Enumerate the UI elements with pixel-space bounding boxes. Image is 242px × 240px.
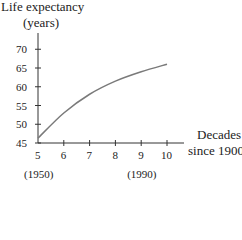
x-tick-label: 9 [138, 149, 144, 161]
x-tick-label: 7 [87, 149, 93, 161]
x-tick-label: 5 [35, 149, 41, 161]
y-tick-label: 65 [16, 62, 27, 74]
x-tick-label: 6 [61, 149, 67, 161]
x-tick-label: 10 [161, 149, 172, 161]
life-expectancy-curve [38, 64, 167, 138]
y-tick-label: 45 [16, 137, 27, 149]
year-annotation: (1990) [127, 168, 156, 180]
y-tick-label: 70 [16, 43, 27, 55]
y-tick-label: 55 [16, 100, 27, 112]
x-tick-label: 8 [112, 149, 118, 161]
y-tick-label: 50 [16, 118, 27, 130]
y-tick-label: 60 [16, 81, 27, 93]
year-annotation: (1950) [24, 168, 53, 180]
